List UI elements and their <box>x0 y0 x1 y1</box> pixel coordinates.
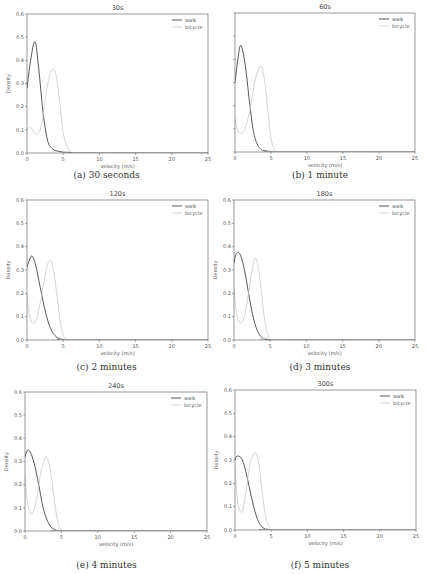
y-axis-label: Density <box>212 260 219 279</box>
y-tick-label: 0.3 <box>14 458 22 464</box>
x-tick-label: 0 <box>25 343 28 349</box>
y-tick-label: 0.4 <box>16 57 24 63</box>
caption-b: (b) 1 minute <box>213 170 427 180</box>
y-tick-label: 0.6 <box>223 197 231 203</box>
x-tick-label: 5 <box>269 155 272 161</box>
x-tick-label: 25 <box>413 533 419 539</box>
y-tick-label: 0.4 <box>14 435 22 441</box>
panel-a: 30s0510152025velocity (m/s)0.00.10.20.30… <box>0 0 213 186</box>
y-tick-label: 0.1 <box>16 127 24 133</box>
line-walk <box>27 256 208 340</box>
y-tick-label: 0.3 <box>223 267 231 273</box>
y-tick-label: 0.5 <box>16 34 24 40</box>
x-axis-label: velocity (m/s) <box>100 163 134 170</box>
chart-title: 60s <box>319 3 331 11</box>
x-tick-label: 10 <box>304 533 310 539</box>
legend-label-walk: walk <box>393 393 405 399</box>
x-tick-label: 0 <box>23 534 26 540</box>
legend-label-bicycle: bicycle <box>184 402 202 409</box>
plot-frame <box>27 14 208 153</box>
chart-30s: 30s0510152025velocity (m/s)0.00.10.20.30… <box>0 0 213 165</box>
chart-300s: 300s0510152025velocity (m/s)0.00.10.20.3… <box>213 378 427 548</box>
line-bicycle <box>235 66 415 152</box>
panel-e: 240s0510152025velocity (m/s)0.00.10.20.3… <box>0 378 213 574</box>
legend-label-walk: walk <box>392 203 404 209</box>
y-tick-label: 0.1 <box>16 313 24 319</box>
x-tick-label: 25 <box>412 343 418 349</box>
chart-title: 180s <box>317 190 333 198</box>
y-tick-label: 0.6 <box>224 387 232 393</box>
panel-d: 180s0510152025velocity (m/s)0.00.10.20.3… <box>213 187 427 377</box>
caption-e: (e) 4 minutes <box>0 560 213 570</box>
chart-title: 300s <box>318 380 334 388</box>
line-walk <box>234 252 415 340</box>
x-tick-label: 20 <box>169 156 175 162</box>
y-axis-label: Density <box>213 450 220 469</box>
plot-frame <box>235 390 416 530</box>
y-tick-label: 0.5 <box>223 220 231 226</box>
y-tick-label: 0.6 <box>16 197 24 203</box>
line-bicycle <box>25 456 207 531</box>
x-tick-label: 25 <box>204 534 210 540</box>
chart-180s: 180s0510152025velocity (m/s)0.00.10.20.3… <box>213 187 427 357</box>
x-tick-label: 5 <box>60 534 63 540</box>
legend-label-bicycle: bicycle <box>392 210 410 217</box>
x-axis-label: velocity (m/s) <box>308 540 342 547</box>
x-tick-label: 25 <box>205 156 211 162</box>
x-tick-label: 5 <box>62 156 65 162</box>
y-tick-label: 0.0 <box>16 150 24 156</box>
x-tick-label: 0 <box>25 156 28 162</box>
x-axis-label: velocity (m/s) <box>99 541 133 548</box>
line-bicycle <box>235 452 416 530</box>
x-axis-label: velocity (m/s) <box>100 350 134 357</box>
y-tick-label: 0.3 <box>16 80 24 86</box>
legend-label-bicycle: bicycle <box>185 210 203 217</box>
line-walk <box>25 450 207 531</box>
y-axis-label: Density <box>5 260 12 279</box>
y-tick-label: 0.0 <box>16 337 24 343</box>
caption-a: (a) 30 seconds <box>0 170 213 180</box>
y-axis-label: Density <box>5 74 12 93</box>
legend-label-bicycle: bicycle <box>185 24 203 31</box>
chart-title: 120s <box>110 190 126 198</box>
chart-240s: 240s0510152025velocity (m/s)0.00.10.20.3… <box>0 378 213 548</box>
y-tick-label: 0.4 <box>16 243 24 249</box>
x-axis-label: velocity (m/s) <box>308 162 342 169</box>
chart-title: 240s <box>108 382 124 390</box>
x-tick-label: 5 <box>269 343 272 349</box>
x-tick-label: 25 <box>412 155 418 161</box>
y-axis-label: Density <box>3 452 10 471</box>
plot-frame <box>234 200 415 340</box>
y-tick-label: 0.2 <box>223 290 231 296</box>
x-tick-label: 25 <box>205 343 211 349</box>
line-walk <box>27 42 208 153</box>
y-tick-label: 0.4 <box>224 433 232 439</box>
x-tick-label: 0 <box>233 155 236 161</box>
y-tick-label: 0.1 <box>224 503 232 509</box>
caption-c: (c) 2 minutes <box>0 362 213 372</box>
x-tick-label: 20 <box>377 533 383 539</box>
legend-label-walk: walk <box>392 16 404 22</box>
x-tick-label: 10 <box>303 343 309 349</box>
y-tick-label: 0.6 <box>16 11 24 17</box>
legend-label-bicycle: bicycle <box>393 400 411 407</box>
x-tick-label: 5 <box>62 343 65 349</box>
x-tick-label: 20 <box>169 343 175 349</box>
y-tick-label: 0.5 <box>16 220 24 226</box>
legend-label-walk: walk <box>184 395 196 401</box>
plot-frame <box>235 13 415 152</box>
y-tick-label: 0.0 <box>224 527 232 533</box>
x-tick-label: 10 <box>304 155 310 161</box>
y-tick-label: 0.5 <box>224 410 232 416</box>
x-tick-label: 15 <box>339 343 345 349</box>
x-tick-label: 15 <box>132 343 138 349</box>
legend-label-bicycle: bicycle <box>392 23 410 30</box>
y-tick-label: 0.0 <box>223 337 231 343</box>
x-tick-label: 15 <box>131 534 137 540</box>
y-tick-label: 0.6 <box>14 389 22 395</box>
y-tick-label: 0.3 <box>224 457 232 463</box>
x-axis-label: velocity (m/s) <box>307 350 341 357</box>
line-walk <box>235 45 415 152</box>
panel-b: 60s0510152025velocity (m/s)walkbicycle (… <box>213 0 427 186</box>
panel-c: 120s0510152025velocity (m/s)0.00.10.20.3… <box>0 187 213 377</box>
